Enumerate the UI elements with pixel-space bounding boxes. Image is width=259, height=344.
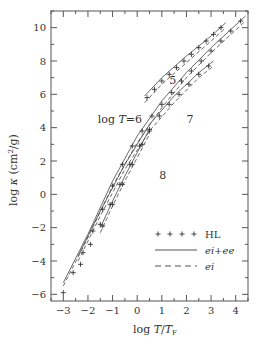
curve-label: 5 xyxy=(169,74,176,87)
y-tick-label: −2 xyxy=(31,222,46,233)
hl-point xyxy=(179,79,184,84)
y-tick-label: −6 xyxy=(31,289,46,300)
hl-point xyxy=(196,45,201,50)
curve-label: 7 xyxy=(186,113,193,126)
x-tick-label: −1 xyxy=(105,305,120,316)
y-tick-label: −4 xyxy=(31,256,46,267)
curve-label: log T=6 xyxy=(98,113,142,126)
x-tick-label: 4 xyxy=(233,305,239,316)
hl-point xyxy=(71,270,76,275)
curve-labels: 5log T=678 xyxy=(98,74,194,182)
legend-cross-icon xyxy=(156,232,161,237)
hl-point xyxy=(159,102,164,107)
x-axis-label: log T/TF xyxy=(133,323,177,337)
hl-series-log-t-7 xyxy=(78,64,211,267)
y-tick-label: 2 xyxy=(40,156,46,167)
hl-point xyxy=(189,52,194,57)
y-axis-label: log κ (cm2/g) xyxy=(7,134,20,206)
hl-point xyxy=(88,242,93,247)
hl-point xyxy=(218,39,223,44)
y-tick-label: 0 xyxy=(40,189,46,200)
y-tick-label: 4 xyxy=(40,122,46,133)
x-tick-label: −2 xyxy=(81,305,96,316)
x-tick-label: 2 xyxy=(183,305,189,316)
chart: −3−2−101234 −6−4−20246810 5log T=678 HLe… xyxy=(0,0,259,344)
legend-cross-icon xyxy=(192,232,197,237)
legend-label: ei+ee xyxy=(205,245,234,256)
y-tick-label: 8 xyxy=(40,56,46,67)
legend-label: ei xyxy=(205,261,214,272)
hl-point xyxy=(206,64,211,69)
plot-frame xyxy=(51,11,248,301)
legend-cross-icon xyxy=(180,232,185,237)
legend-item-ei-ee: ei+ee xyxy=(155,245,234,256)
hl-point xyxy=(78,262,83,267)
ei-line-log-t-8 xyxy=(100,134,149,232)
y-axis: −6−4−20246810 xyxy=(31,11,248,300)
x-axis: −3−2−101234 xyxy=(51,11,248,316)
legend: HLei+eeei xyxy=(155,229,234,272)
y-tick-label: 6 xyxy=(40,89,46,100)
legend-item-ei: ei xyxy=(155,261,214,272)
legend-item-HL: HL xyxy=(156,229,221,240)
x-tick-label: 1 xyxy=(159,305,165,316)
curve-label: 8 xyxy=(159,169,166,182)
y-tick-label: 10 xyxy=(33,22,46,33)
hl-point xyxy=(204,39,209,44)
legend-label: HL xyxy=(205,229,221,240)
legend-cross-icon xyxy=(168,232,173,237)
x-tick-label: 3 xyxy=(208,305,214,316)
hl-point xyxy=(145,95,150,100)
hl-point xyxy=(61,290,66,295)
hl-point xyxy=(169,90,174,95)
hl-point xyxy=(167,102,172,107)
x-tick-label: 0 xyxy=(134,305,140,316)
ei-ee-line-log-t-7 xyxy=(78,61,213,256)
x-tick-label: −3 xyxy=(56,305,71,316)
